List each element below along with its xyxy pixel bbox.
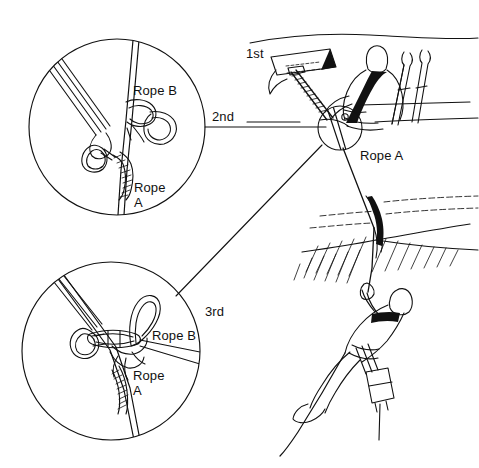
planted-skis bbox=[392, 50, 430, 125]
detail-circle-third bbox=[22, 262, 200, 440]
rope-a-in-crevasse bbox=[368, 228, 374, 292]
label-step-third: 3rd bbox=[205, 305, 224, 319]
detail2-carabiner bbox=[70, 329, 105, 359]
snow-anchor bbox=[269, 49, 336, 120]
crevasse-rescue-diagram: 1st 2nd 3rd Rope A Rope B Rope A Rope B … bbox=[0, 0, 479, 468]
detail2-rope-b-strand bbox=[140, 340, 200, 364]
detail1-friction-hitch bbox=[113, 152, 133, 200]
label-detail1-rope-a-line2: A bbox=[134, 196, 143, 210]
label-main-rope-a: Rope A bbox=[360, 149, 403, 163]
label-step-second: 2nd bbox=[212, 110, 234, 124]
hanging-climber bbox=[293, 283, 412, 423]
label-detail2-rope-a-line2: A bbox=[133, 384, 142, 398]
diagram-artwork bbox=[0, 0, 479, 468]
label-detail2-rope-b: Rope B bbox=[152, 329, 196, 343]
label-detail2-rope-a-line1: Rope bbox=[133, 369, 164, 383]
detail-circle-second bbox=[29, 39, 205, 215]
detail1-knot-rope-b bbox=[126, 100, 176, 145]
detail2-sling-strands bbox=[46, 266, 102, 330]
crevasse bbox=[294, 196, 478, 283]
label-detail1-rope-a-line1: Rope bbox=[134, 181, 165, 195]
rope-a-tail bbox=[280, 353, 380, 456]
detail1-sling-loop bbox=[90, 133, 111, 159]
label-step-first: 1st bbox=[246, 47, 264, 61]
label-detail1-rope-b: Rope B bbox=[133, 84, 177, 98]
detail1-sling-strands bbox=[42, 52, 110, 135]
leader-lines bbox=[176, 127, 326, 296]
